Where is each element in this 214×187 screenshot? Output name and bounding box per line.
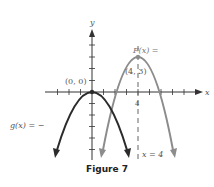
g-equation: g(x) = − <box>10 121 44 130</box>
tick-label-4: 4 <box>135 100 140 108</box>
x-axis-arrow-icon <box>195 89 203 95</box>
svg-text:F(x) =: F(x) = <box>132 46 159 55</box>
axis-of-symmetry-label: x = 4 <box>142 150 163 159</box>
origin-vertex-dot <box>90 90 94 94</box>
g-left-arrow-icon <box>53 148 60 158</box>
figure-caption: Figure 7 <box>0 164 214 174</box>
F-equation-rest: F(x) = <box>106 45 133 54</box>
svg-text:g(x) = −: g(x) = − <box>10 121 44 130</box>
y-axis-label: y <box>89 18 95 27</box>
F-left-arrow-icon <box>99 148 106 158</box>
y-axis-arrow-icon <box>89 29 95 37</box>
x-axis <box>45 89 203 95</box>
F-right-arrow-icon <box>170 148 177 158</box>
origin-label: (0, 0) <box>65 77 87 86</box>
y-axis <box>89 29 95 160</box>
vertex-4-3-label: (4, 3) <box>125 67 147 76</box>
F-equation: F(x) = <box>132 46 159 55</box>
x-axis-label: x <box>205 88 210 97</box>
figure-7: y x (0, 0) (4, 3) 4 x = 4 F(x) = F(x) = … <box>0 0 214 187</box>
g-right-arrow-icon <box>124 148 131 158</box>
F-vertex-dot <box>136 55 140 59</box>
graph-canvas: y x (0, 0) (4, 3) 4 x = 4 F(x) = F(x) = … <box>0 0 214 187</box>
